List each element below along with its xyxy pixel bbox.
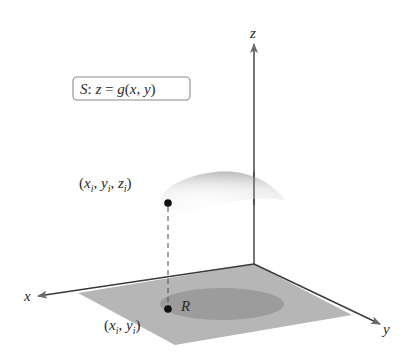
surface-point-label: (xi, yi, zi) — [79, 175, 132, 194]
plane-point — [164, 305, 172, 313]
y-axis-label: y — [381, 321, 390, 337]
z-axis-label: z — [249, 25, 256, 41]
surface-integral-diagram: S: z = g(x, y) z x y R (xi, yi, zi) (xi,… — [0, 0, 413, 352]
region-r-label: R — [180, 298, 190, 314]
surface-point — [164, 199, 172, 207]
plane-point-label: (xi, yi) — [104, 317, 140, 336]
region-r — [160, 288, 284, 320]
surface-s — [160, 172, 285, 211]
x-axis-label: x — [23, 288, 31, 304]
surface-equation-label: S: z = g(x, y) — [80, 81, 156, 98]
